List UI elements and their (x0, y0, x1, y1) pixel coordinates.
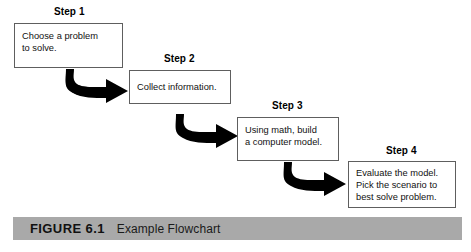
figure-number: FIGURE 6.1 (30, 221, 105, 236)
flowchart-step-1: Step 1 Choose a problem to solve. (14, 6, 124, 68)
step-4-label: Step 4 (386, 145, 417, 156)
figure-caption-content: FIGURE 6.1 Example Flowchart (30, 217, 221, 240)
step-1-box: Choose a problem to solve. (14, 23, 123, 68)
step-1-label: Step 1 (54, 6, 85, 17)
step-1-text: Choose a problem to solve. (22, 30, 117, 54)
step-2-label: Step 2 (164, 53, 195, 64)
step-3-box: Using math, build a computer model. (237, 117, 339, 161)
flowchart-step-2: Step 2 Collect information. (129, 53, 232, 104)
step-2-box: Collect information. (129, 70, 231, 104)
step-2-text: Collect information. (137, 81, 225, 93)
curved-arrow-step1-to-step2 (58, 69, 130, 103)
figure-container: Step 1 Choose a problem to solve. Step 2… (0, 0, 471, 252)
flowchart-step-3: Step 3 Using math, build a computer mode… (237, 100, 340, 161)
figure-caption-bar: FIGURE 6.1 Example Flowchart (13, 217, 462, 240)
flowchart-step-4: Step 4 Evaluate the model. Pick the scen… (348, 145, 458, 208)
figure-title: Example Flowchart (117, 222, 221, 236)
step-3-label: Step 3 (272, 100, 303, 111)
step-3-text: Using math, build a computer model. (245, 124, 333, 148)
curved-arrow-step3-to-step4 (276, 162, 348, 196)
step-4-box: Evaluate the model. Pick the scenario to… (348, 161, 456, 208)
step-4-text: Evaluate the model. Pick the scenario to… (356, 167, 450, 204)
curved-arrow-step2-to-step3 (168, 114, 240, 148)
